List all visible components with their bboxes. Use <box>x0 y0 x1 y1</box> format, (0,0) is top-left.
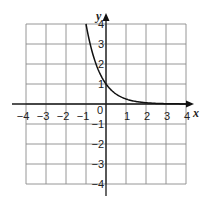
y-tick-label: 2 <box>98 58 104 70</box>
x-axis-label: x <box>192 106 199 120</box>
x-tick-label: 3 <box>164 110 170 122</box>
y-tick-label: −3 <box>91 158 104 170</box>
y-tick-label: −2 <box>91 138 104 150</box>
x-tick-label: 1 <box>124 110 130 122</box>
x-tick-label: −4 <box>17 110 30 122</box>
x-tick-label: −3 <box>37 110 50 122</box>
y-tick-label: −4 <box>91 178 104 190</box>
graph-canvas: −4−3−2−101234 4321−1−2−3−4 x y <box>0 0 206 208</box>
y-axis-label: y <box>94 9 102 23</box>
x-tick-label: 0 <box>97 104 103 116</box>
y-tick-label: 3 <box>98 38 104 50</box>
x-tick-label: −1 <box>77 110 90 122</box>
y-tick-label: −1 <box>91 118 104 130</box>
x-tick-label: 2 <box>144 110 150 122</box>
x-tick-label: 4 <box>184 110 190 122</box>
x-tick-label: −2 <box>57 110 70 122</box>
